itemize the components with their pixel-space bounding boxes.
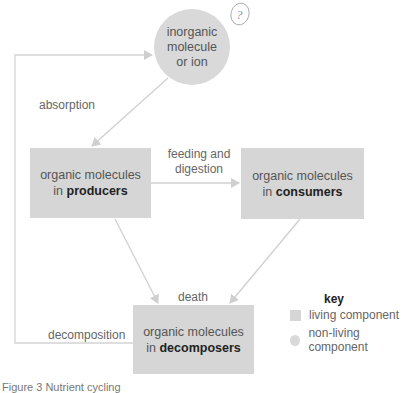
node-consumers: organic molecules in consumers <box>241 148 364 219</box>
feeding-line1: feeding and <box>160 147 238 162</box>
circle-swatch-icon <box>290 335 300 346</box>
decomposers-bold: decomposers <box>159 341 240 355</box>
producers-line1: organic molecules <box>40 167 141 183</box>
label-death: death <box>178 290 208 305</box>
key-title: key <box>324 292 344 306</box>
label-absorption: absorption <box>39 98 95 113</box>
label-feeding-digestion: feeding and digestion <box>160 147 238 177</box>
key-item-living: living component <box>290 308 399 322</box>
consumers-in: in <box>263 185 276 199</box>
question-mark-icon: ? <box>229 1 251 27</box>
producers-in: in <box>53 184 66 198</box>
node-inorganic-molecule: inorganic molecule or ion <box>154 9 230 85</box>
node-producers: organic molecules in producers <box>30 148 151 218</box>
consumers-line1: organic molecules <box>252 168 353 184</box>
key-label-living: living component <box>309 308 399 322</box>
decomposers-in: in <box>146 341 159 355</box>
producers-bold: producers <box>67 184 128 198</box>
square-swatch-icon <box>290 310 301 321</box>
label-decomposition: decomposition <box>48 328 125 343</box>
consumers-bold: consumers <box>276 185 343 199</box>
svg-text:?: ? <box>236 7 243 22</box>
key-item-non-living: non-living component <box>290 326 416 354</box>
node-decomposers: organic molecules in decomposers <box>133 305 254 374</box>
node-inorganic-line3: or ion <box>167 55 218 70</box>
node-inorganic-line1: inorganic <box>167 25 218 40</box>
decomposers-line1: organic molecules <box>143 324 244 340</box>
feeding-line2: digestion <box>160 162 238 177</box>
node-inorganic-line2: molecule <box>167 40 218 55</box>
figure-caption: Figure 3 Nutrient cycling <box>2 381 121 393</box>
key-label-non-living: non-living component <box>308 326 416 354</box>
